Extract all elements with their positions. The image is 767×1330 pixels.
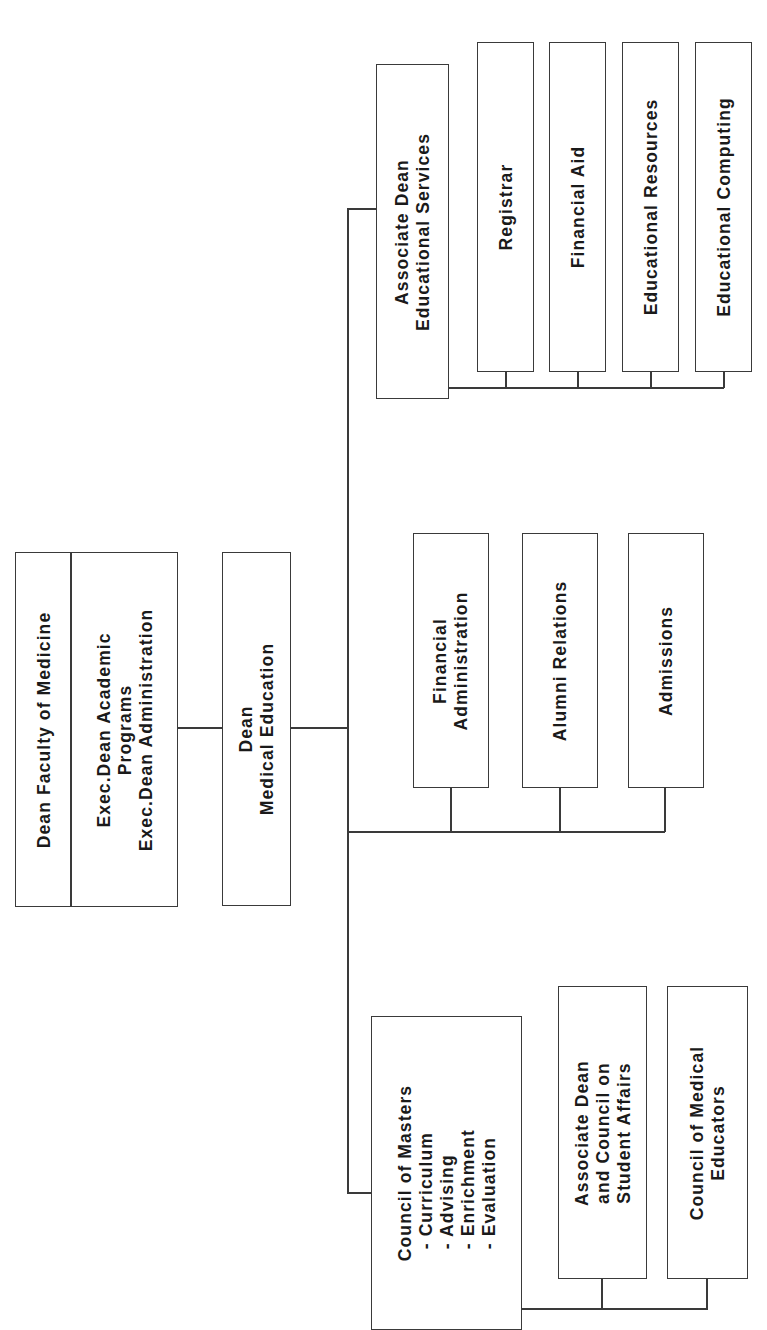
associate-dean-student-affairs-box: Associate Dean and Council on Student Af… xyxy=(558,986,647,1279)
financial-aid-label: Financial Aid xyxy=(567,146,588,269)
council-of-masters-box: Council of Masters - Curriculum - Advisi… xyxy=(371,1016,522,1330)
connector-line xyxy=(347,1192,372,1194)
dean-fom-cell: Dean Faculty of Medicine xyxy=(16,553,71,906)
assoc-dean-es-label: Associate Dean Educational Services xyxy=(392,132,434,330)
financial-admin-label: Financial Administration xyxy=(430,591,472,730)
financial-aid-box: Financial Aid xyxy=(549,42,606,372)
associate-dean-educational-services-box: Associate Dean Educational Services xyxy=(376,64,449,399)
alumni-relations-label: Alumni Relations xyxy=(550,580,571,741)
connector-line xyxy=(559,786,561,832)
connector-line xyxy=(723,370,725,388)
connector-line xyxy=(577,370,579,388)
connector-line xyxy=(521,1308,708,1310)
dean-faculty-of-medicine-box: Dean Faculty of Medicine Exec.Dean Acade… xyxy=(15,552,178,907)
connector-line xyxy=(601,1277,603,1309)
educational-resources-label: Educational Resources xyxy=(640,99,661,316)
alumni-relations-box: Alumni Relations xyxy=(522,533,598,788)
connector-line xyxy=(347,831,665,833)
educational-resources-box: Educational Resources xyxy=(622,42,679,372)
spine-line xyxy=(347,208,349,1194)
exec-deans-cell: Exec.Dean Academic Programs Exec.Dean Ad… xyxy=(72,553,177,906)
council-med-ed-label: Council of Medical Educators xyxy=(687,1045,729,1219)
connector-line xyxy=(505,370,507,388)
registrar-box: Registrar xyxy=(477,42,534,372)
educational-computing-box: Educational Computing xyxy=(695,42,752,372)
admissions-label: Admissions xyxy=(656,605,677,715)
financial-administration-box: Financial Administration xyxy=(413,533,489,788)
exec-deans-label: Exec.Dean Academic Programs Exec.Dean Ad… xyxy=(93,608,156,851)
connector-line xyxy=(347,208,377,210)
council-masters-label: Council of Masters - Curriculum - Advisi… xyxy=(394,1085,499,1261)
connector-line xyxy=(650,370,652,388)
dean-me-label: Dean Medical Education xyxy=(236,643,278,815)
connector-line xyxy=(448,387,724,389)
admissions-box: Admissions xyxy=(628,533,704,788)
dean-medical-education-box: Dean Medical Education xyxy=(222,552,291,906)
connector-line xyxy=(177,727,223,729)
dean-fom-label: Dean Faculty of Medicine xyxy=(33,611,54,847)
educational-computing-label: Educational Computing xyxy=(713,97,734,316)
assoc-dean-sa-label: Associate Dean and Council on Student Af… xyxy=(571,1060,634,1206)
council-of-medical-educators-box: Council of Medical Educators xyxy=(667,986,748,1279)
connector-line xyxy=(450,786,452,832)
connector-line xyxy=(706,1277,708,1309)
connector-line xyxy=(664,786,666,832)
connector-line xyxy=(290,727,348,729)
registrar-label: Registrar xyxy=(495,164,516,251)
